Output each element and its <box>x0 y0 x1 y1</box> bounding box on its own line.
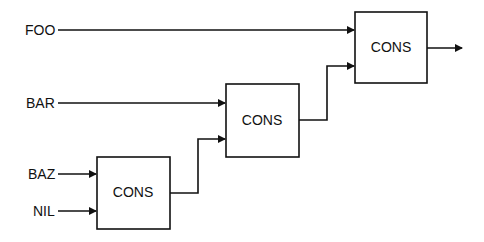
connector-middle-to-top <box>299 66 354 120</box>
connector-bottom-to-middle <box>170 139 225 193</box>
cons-box-bottom-label: CONS <box>113 184 153 200</box>
cons-box-middle: CONS <box>226 84 299 157</box>
input-label-baz: BAZ <box>28 166 56 182</box>
input-label-nil: NIL <box>33 203 55 219</box>
cons-box-bottom: CONS <box>97 157 170 229</box>
diagram-svg: FOO BAR BAZ NIL CONS CONS CONS <box>0 0 484 242</box>
cons-box-top: CONS <box>355 12 427 83</box>
input-label-foo: FOO <box>25 22 55 38</box>
input-label-bar: BAR <box>26 95 55 111</box>
cons-box-top-label: CONS <box>371 39 411 55</box>
cons-diagram: FOO BAR BAZ NIL CONS CONS CONS <box>0 0 484 242</box>
cons-box-middle-label: CONS <box>242 112 282 128</box>
